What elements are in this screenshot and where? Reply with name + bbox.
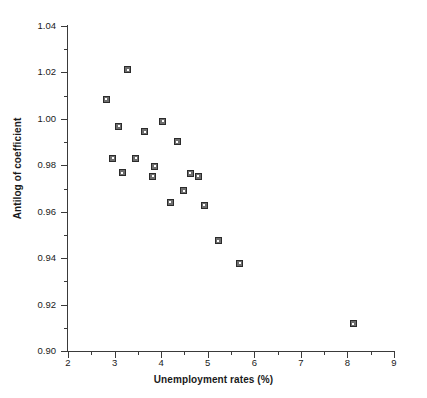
data-point-center (127, 69, 129, 71)
x-axis-tick-label: 3 (102, 357, 128, 368)
data-point-center (239, 262, 241, 264)
x-axis-minor-tick (91, 351, 92, 355)
data-point (180, 187, 187, 194)
y-axis-tick (61, 72, 68, 73)
data-point (187, 170, 194, 177)
x-axis-minor-tick (138, 351, 139, 355)
data-point (132, 155, 139, 162)
y-axis-title: Antilog of coefficient (12, 64, 23, 274)
data-point-center (183, 190, 185, 192)
scatter-chart-figure: 1.041.021.000.980.960.940.920.9023456789… (0, 0, 427, 398)
data-point-center (135, 157, 137, 159)
data-point (201, 202, 208, 209)
data-point-center (169, 201, 171, 203)
data-point-center (352, 323, 354, 325)
data-point (174, 138, 181, 145)
data-point (151, 163, 158, 170)
data-point (115, 123, 122, 130)
data-point (103, 96, 110, 103)
data-point (350, 320, 357, 327)
data-point (215, 237, 222, 244)
data-point-center (112, 157, 114, 159)
y-axis-tick-label: 0.90 (16, 346, 56, 356)
data-point (236, 260, 243, 267)
x-axis-minor-tick (278, 351, 279, 355)
data-point-center (176, 141, 178, 143)
data-point-center (121, 172, 123, 174)
plot-area (68, 26, 394, 351)
x-axis-tick-label: 6 (241, 357, 267, 368)
data-point (149, 173, 156, 180)
data-point-center (105, 98, 107, 100)
data-point (159, 118, 166, 125)
x-axis-tick-label: 5 (195, 357, 221, 368)
data-point-center (154, 165, 156, 167)
data-point (167, 199, 174, 206)
data-point-center (197, 175, 199, 177)
x-axis-minor-tick (324, 351, 325, 355)
data-point-center (152, 175, 154, 177)
x-axis-minor-tick (371, 351, 372, 355)
x-axis-tick-label: 8 (334, 357, 360, 368)
y-axis-tick-label: 0.92 (16, 300, 56, 310)
data-point-center (162, 120, 164, 122)
y-axis-tick (61, 165, 68, 166)
x-axis-minor-tick (231, 351, 232, 355)
data-point-center (144, 131, 146, 133)
data-point (109, 155, 116, 162)
data-point-center (118, 125, 120, 127)
data-point (119, 169, 126, 176)
x-axis-tick-label: 2 (55, 357, 81, 368)
x-axis-tick-label: 7 (288, 357, 314, 368)
x-axis-tick-label: 4 (148, 357, 174, 368)
data-point-center (203, 204, 205, 206)
y-axis-tick (61, 119, 68, 120)
y-axis-tick (61, 351, 68, 352)
y-axis-tick-label: 1.04 (16, 21, 56, 31)
x-axis-title: Unemployment rates (%) (0, 374, 427, 385)
y-axis-tick (61, 212, 68, 213)
data-point (141, 128, 148, 135)
y-axis-tick (61, 26, 68, 27)
x-axis-tick-label: 9 (381, 357, 407, 368)
x-axis-minor-tick (184, 351, 185, 355)
data-point (195, 173, 202, 180)
data-point (124, 66, 131, 73)
y-axis-tick (61, 305, 68, 306)
data-point-center (189, 172, 191, 174)
y-axis-tick (61, 258, 68, 259)
data-point-center (217, 240, 219, 242)
